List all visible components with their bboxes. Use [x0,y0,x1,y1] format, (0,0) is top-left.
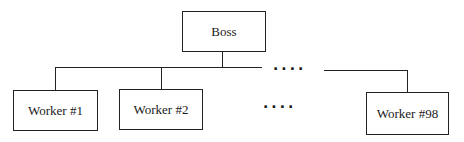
boss-label: Boss [211,24,236,40]
worker-1-connector [55,67,56,90]
worker-98-connector [407,70,408,92]
nodes-ellipsis: ···· [263,100,296,114]
worker-2-node: Worker #2 [119,89,203,130]
worker-2-connector [161,67,162,89]
worker-1-node: Worker #1 [13,90,98,131]
bus-line-left [55,67,262,68]
boss-node: Boss [182,11,266,52]
bus-line-right [324,70,408,71]
worker-98-node: Worker #98 [366,92,449,135]
worker-2-label: Worker #2 [134,102,189,118]
worker-1-label: Worker #1 [28,103,83,119]
boss-connector [222,51,223,68]
bus-ellipsis: ···· [273,62,306,76]
worker-98-label: Worker #98 [377,106,438,122]
